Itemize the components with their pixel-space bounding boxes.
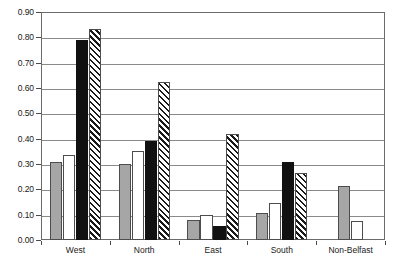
y-axis-tick-mark (36, 113, 41, 114)
y-axis-tick-label: 0.70 (2, 59, 34, 67)
y-axis-tick-mark (36, 189, 41, 190)
bar-west-series-4 (89, 29, 101, 241)
y-axis-tick-mark (36, 88, 41, 89)
bar-south-series-4 (295, 173, 307, 240)
bar-non-belfast-series-1 (338, 186, 350, 241)
y-axis-tick-mark (36, 139, 41, 140)
x-axis-label-non-belfast: Non-Belfast (316, 245, 385, 255)
bar-north-series-2 (132, 151, 144, 240)
bar-north-series-4 (158, 82, 170, 240)
y-axis-tick-label: 0.40 (2, 135, 34, 143)
y-axis-tick-label: 0.20 (2, 185, 34, 193)
y-axis-tick-label: 0.50 (2, 109, 34, 117)
y-axis-tick-label: 0.80 (2, 33, 34, 41)
bar-south-series-2 (269, 203, 281, 240)
y-axis-tick-mark (36, 37, 41, 38)
bar-south-series-1 (256, 213, 268, 240)
y-axis-tick-mark (36, 215, 41, 216)
y-axis-tick-label: 0.90 (2, 8, 34, 16)
bar-east-series-3 (213, 226, 225, 240)
x-axis-label-south: South (247, 245, 316, 255)
y-axis-labels: 0.000.100.200.300.400.500.600.700.800.90 (0, 0, 34, 263)
bar-north-series-1 (119, 164, 131, 240)
y-axis-tick-mark (36, 12, 41, 13)
x-axis-label-north: North (110, 245, 179, 255)
bar-west-series-3 (76, 40, 88, 240)
x-axis-label-east: East (179, 245, 248, 255)
bar-west-series-2 (63, 155, 75, 240)
y-axis-tick-label: 0.60 (2, 84, 34, 92)
y-axis-tick-label: 0.00 (2, 236, 34, 244)
bar-north-series-3 (145, 141, 157, 240)
y-axis-tick-mark (36, 63, 41, 64)
x-axis-tick-mark (385, 241, 386, 245)
bar-west-series-1 (50, 162, 62, 241)
bar-east-series-2 (200, 215, 212, 240)
bar-south-series-3 (282, 162, 294, 241)
x-axis-label-west: West (41, 245, 110, 255)
bar-non-belfast-series-2 (351, 221, 363, 241)
bar-east-series-4 (226, 134, 238, 240)
y-axis-tick-label: 0.10 (2, 211, 34, 219)
bar-east-series-1 (187, 220, 199, 240)
bars-layer (41, 12, 385, 240)
y-axis-tick-label: 0.30 (2, 160, 34, 168)
y-axis-tick-mark (36, 164, 41, 165)
bar-chart: 0.000.100.200.300.400.500.600.700.800.90… (0, 0, 396, 263)
